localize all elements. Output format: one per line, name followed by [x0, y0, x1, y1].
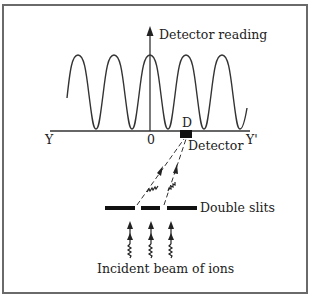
wave-packet-path-2	[168, 182, 175, 191]
interference-wave	[67, 55, 247, 129]
slit-barrier-left	[105, 206, 135, 210]
vertical-axis-arrowhead	[147, 26, 154, 36]
detector-block	[180, 130, 192, 138]
diagram-canvas	[0, 0, 312, 298]
incident-beam-arrow-1	[127, 221, 133, 258]
detector-label: Detector	[188, 140, 243, 153]
incident-beam-arrow-3	[168, 221, 174, 258]
origin-label: 0	[147, 134, 155, 147]
axis-left-label: Y	[45, 134, 53, 147]
arrowhead-path-1	[157, 166, 163, 176]
detector-marker-label: D	[182, 117, 192, 130]
wave-packet-path-1	[147, 186, 158, 192]
slit-barrier-right	[167, 206, 197, 210]
incident-beam-arrow-2	[148, 221, 154, 258]
double-slits-label: Double slits	[200, 202, 275, 215]
detector-reading-label: Detector reading	[159, 29, 267, 42]
slit-barrier-middle	[141, 206, 160, 210]
axis-right-label: Y'	[246, 134, 258, 147]
incident-beam-label: Incident beam of ions	[97, 263, 234, 276]
